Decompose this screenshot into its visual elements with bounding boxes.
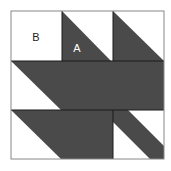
label-a: A [73, 42, 81, 54]
quilt-block-diagram: B A [0, 0, 171, 171]
label-b: B [32, 31, 39, 43]
